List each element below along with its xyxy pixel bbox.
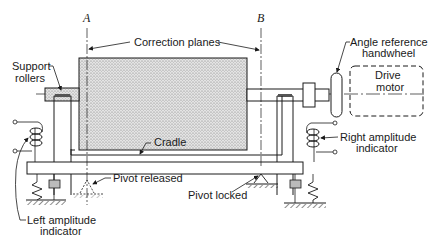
label-drive-motor-1: Drive: [375, 69, 401, 81]
right-support-roller: [278, 94, 292, 97]
pivot-released: [73, 180, 103, 198]
label-cradle: Cradle: [154, 136, 186, 148]
balancing-machine-diagram: A B Correction planes Support rollers An…: [0, 0, 439, 244]
label-drive-motor-2: motor: [376, 81, 404, 93]
label-pivot-released: Pivot released: [113, 172, 183, 184]
handwheel: [331, 73, 342, 117]
left-amplitude-coil: [13, 120, 43, 162]
label-support-rollers-1: Support: [12, 60, 51, 72]
plane-b-label: B: [257, 11, 265, 25]
right-amplitude-coil: [307, 121, 338, 162]
plane-a-label: A: [82, 11, 91, 25]
label-support-rollers-2: rollers: [15, 72, 45, 84]
label-angle-reference-2: handwheel: [362, 47, 415, 59]
coupling: [303, 83, 315, 107]
label-pivot-locked: Pivot locked: [188, 189, 247, 201]
left-support-roller: [55, 94, 70, 97]
left-spring-damper: [26, 174, 66, 205]
pivot-locked: [246, 174, 278, 188]
label-right-amplitude-2: indicator: [356, 142, 398, 154]
right-spring-damper: [284, 174, 326, 208]
label-left-amplitude-2: indicator: [40, 225, 82, 237]
label-correction-planes: Correction planes: [134, 36, 221, 48]
